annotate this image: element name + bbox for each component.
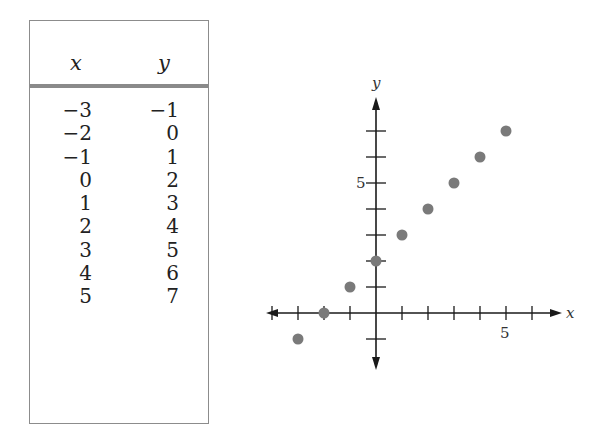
data-point (423, 204, 434, 215)
y-tick-label: 5 (356, 174, 366, 192)
y-axis-label: y (371, 74, 381, 92)
y-axis-arrow-down-icon (372, 357, 380, 370)
data-point (501, 126, 512, 137)
data-point (345, 282, 356, 293)
y-axis-arrow-up-icon (372, 97, 380, 110)
x-tick-label: 5 (500, 324, 510, 342)
x-axis-label: x (566, 304, 575, 322)
data-point (371, 256, 382, 267)
data-point (475, 152, 486, 163)
data-point (319, 308, 330, 319)
data-point (293, 334, 304, 345)
axes (266, 97, 562, 370)
data-point (397, 230, 408, 241)
scatter-plot: 5 5 x y (0, 0, 607, 442)
data-point (449, 178, 460, 189)
x-axis-arrow-right-icon (550, 309, 562, 317)
